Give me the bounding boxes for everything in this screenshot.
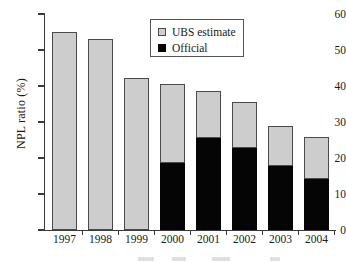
scan-artifact bbox=[212, 257, 230, 261]
y-tick-mark bbox=[38, 229, 44, 230]
bar-segment-ubs-estimate-2001 bbox=[196, 91, 221, 138]
legend-item-official: Official bbox=[158, 41, 243, 55]
legend-label-official: Official bbox=[172, 42, 208, 54]
bar-1997 bbox=[52, 32, 77, 230]
bar-segment-official-2001 bbox=[196, 138, 221, 230]
legend-item-ubs-estimate: UBS estimate bbox=[158, 25, 243, 39]
gray-square-icon bbox=[158, 28, 166, 36]
y-tick-label: 50 bbox=[312, 44, 346, 56]
y-tick-mark bbox=[38, 193, 44, 194]
chart-legend: UBS estimate Official bbox=[150, 19, 244, 57]
bar-segment-official-2004 bbox=[304, 179, 329, 230]
bar-segment-ubs-estimate-1998 bbox=[88, 39, 113, 230]
y-tick-mark bbox=[38, 157, 44, 158]
bar-2001 bbox=[196, 91, 221, 230]
scan-artifact bbox=[138, 257, 154, 261]
y-axis-title: NPL ratio (%) bbox=[14, 49, 29, 179]
bar-2002 bbox=[232, 102, 257, 230]
y-tick-label: 60 bbox=[312, 8, 346, 20]
y-tick-mark bbox=[38, 13, 44, 14]
bar-segment-ubs-estimate-1999 bbox=[124, 78, 149, 230]
x-tick-label-2004: 2004 bbox=[294, 233, 340, 245]
bar-2003 bbox=[268, 126, 293, 230]
bar-1998 bbox=[88, 39, 113, 230]
bar-segment-ubs-estimate-1997 bbox=[52, 32, 77, 230]
npl-ratio-bar-chart: NPL ratio (%) 0102030405060 199719981999… bbox=[0, 0, 346, 262]
bar-segment-ubs-estimate-2002 bbox=[232, 102, 257, 148]
bar-segment-official-2002 bbox=[232, 148, 257, 230]
y-tick-mark bbox=[38, 49, 44, 50]
scan-artifact bbox=[270, 257, 280, 261]
bar-segment-official-2000 bbox=[160, 163, 185, 230]
bar-segment-ubs-estimate-2000 bbox=[160, 84, 185, 163]
y-tick-mark bbox=[38, 85, 44, 86]
scan-artifact bbox=[172, 257, 186, 261]
y-tick-label: 40 bbox=[312, 80, 346, 92]
bar-segment-ubs-estimate-2003 bbox=[268, 126, 293, 165]
legend-label-ubs-estimate: UBS estimate bbox=[172, 26, 236, 38]
black-square-icon bbox=[158, 44, 166, 52]
bar-segment-official-2003 bbox=[268, 166, 293, 230]
bar-2004 bbox=[304, 137, 329, 230]
bar-segment-ubs-estimate-2004 bbox=[304, 137, 329, 178]
y-tick-label: 30 bbox=[312, 116, 346, 128]
y-tick-mark bbox=[38, 121, 44, 122]
bar-1999 bbox=[124, 78, 149, 230]
y-axis-line bbox=[44, 13, 45, 231]
bar-2000 bbox=[160, 84, 185, 230]
